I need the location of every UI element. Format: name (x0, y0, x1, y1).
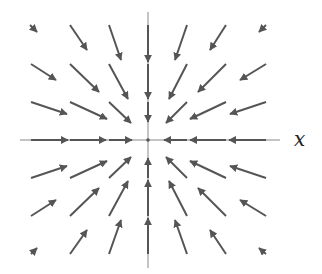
vector-arrow (175, 220, 187, 254)
vector-field-diagram (0, 0, 322, 274)
vector-arrow (175, 25, 187, 60)
vector-arrow (198, 64, 226, 92)
vector-arrows (30, 25, 266, 254)
vector-arrow (30, 25, 37, 32)
vector-arrow (169, 181, 187, 216)
vector-arrow (240, 200, 266, 216)
vector-arrow (230, 102, 266, 114)
vector-arrow (109, 157, 131, 178)
vector-arrow (31, 248, 37, 254)
vector-arrow (70, 102, 107, 119)
x-axis-label: x (294, 127, 305, 151)
vector-arrow (70, 161, 107, 178)
vector-arrow (230, 166, 266, 178)
vector-arrow (109, 25, 121, 60)
vector-arrow (198, 188, 226, 216)
vector-arrow (166, 102, 187, 123)
vector-arrow (31, 166, 67, 178)
vector-arrow (190, 102, 226, 119)
vector-arrow (259, 248, 266, 254)
origin-point (146, 138, 150, 142)
vector-arrow (240, 64, 266, 80)
vector-arrow (169, 64, 187, 99)
vector-arrow (166, 157, 187, 178)
vector-arrow (31, 200, 56, 216)
vector-arrow (109, 181, 128, 216)
vector-arrow (70, 230, 87, 254)
vector-arrow (70, 64, 99, 92)
vector-arrow (210, 25, 226, 50)
vector-arrow (70, 188, 99, 216)
vector-arrow (259, 25, 266, 32)
vector-arrow (70, 25, 87, 50)
vector-arrow (109, 102, 131, 123)
vector-arrow (190, 161, 226, 178)
vector-arrow (109, 220, 121, 254)
vector-arrow (31, 102, 67, 114)
vector-arrow (210, 230, 226, 254)
vector-arrow (31, 64, 56, 80)
vector-arrow (109, 64, 128, 99)
